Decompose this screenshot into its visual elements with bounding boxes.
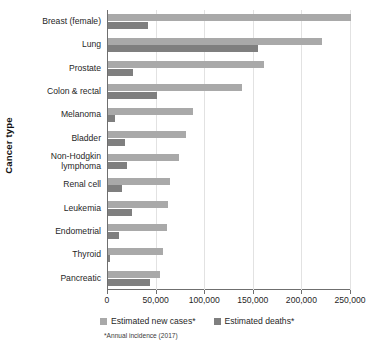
bar-estimated-new-cases [108, 271, 160, 278]
category-label-column: Breast (female)LungProstateColon & recta… [17, 10, 105, 290]
x-axis: 050,000100,000150,000200,000250,000 [107, 290, 350, 310]
x-axis-tick [350, 290, 351, 294]
legend-swatch-icon [100, 318, 107, 325]
category-label-row: Leukemia [17, 197, 105, 220]
bar-estimated-new-cases [108, 38, 322, 45]
bar-estimated-deaths [108, 255, 110, 262]
bar-estimated-new-cases [108, 248, 163, 255]
x-axis-tick [204, 290, 205, 294]
legend-swatch-icon [214, 318, 221, 325]
x-axis-tick [107, 290, 108, 294]
bar-estimated-deaths [108, 115, 115, 122]
category-label: Non-Hodgkin lymphoma [17, 152, 105, 171]
bars-column [107, 10, 350, 290]
category-label: Renal cell [17, 180, 105, 190]
category-label: Thyroid [17, 250, 105, 260]
bar-estimated-new-cases [108, 108, 193, 115]
category-label: Pancreatic [17, 274, 105, 284]
bar-estimated-deaths [108, 185, 122, 192]
bar-estimated-deaths [108, 162, 127, 169]
y-axis-title: Cancer type [0, 0, 16, 290]
x-axis-tick-label: 200,000 [286, 295, 317, 305]
category-label-row: Melanoma [17, 103, 105, 126]
bar-estimated-new-cases [108, 131, 186, 138]
x-axis-tick [301, 290, 302, 294]
bar-estimated-deaths [108, 279, 150, 286]
bar-estimated-new-cases [108, 84, 242, 91]
category-label: Prostate [17, 64, 105, 74]
bar-estimated-deaths [108, 209, 132, 216]
category-label: Leukemia [17, 204, 105, 214]
category-label: Bladder [17, 134, 105, 144]
category-label: Melanoma [17, 110, 105, 120]
category-label-row: Non-Hodgkin lymphoma [17, 150, 105, 173]
category-label-row: Prostate [17, 57, 105, 80]
legend-label: Estimated new cases* [111, 316, 196, 326]
x-axis-tick-label: 250,000 [334, 295, 365, 305]
chart-legend: Estimated new cases*Estimated deaths* [100, 316, 350, 326]
gridline [301, 10, 302, 290]
legend-item[interactable]: Estimated deaths* [214, 316, 295, 326]
bar-estimated-deaths [108, 139, 125, 146]
category-label: Lung [17, 40, 105, 50]
category-label: Breast (female) [17, 17, 105, 27]
y-axis-title-text: Cancer type [3, 117, 14, 174]
category-label-row: Endometrial [17, 220, 105, 243]
x-axis-tick-label: 0 [105, 295, 110, 305]
bar-estimated-deaths [108, 92, 157, 99]
bar-estimated-deaths [108, 22, 148, 29]
bar-estimated-new-cases [108, 178, 170, 185]
category-label-row: Pancreatic [17, 267, 105, 290]
category-label-row: Lung [17, 33, 105, 56]
legend-label: Estimated deaths* [225, 316, 295, 326]
plot-area: Breast (female)LungProstateColon & recta… [17, 10, 350, 290]
category-label: Endometrial [17, 227, 105, 237]
category-label-row: Colon & rectal [17, 80, 105, 103]
x-axis-tick [156, 290, 157, 294]
bar-estimated-new-cases [108, 154, 179, 161]
x-axis-tick [253, 290, 254, 294]
category-label-row: Bladder [17, 127, 105, 150]
bar-estimated-deaths [108, 232, 119, 239]
category-label: Colon & rectal [17, 87, 105, 97]
legend-item[interactable]: Estimated new cases* [100, 316, 196, 326]
category-label-row: Thyroid [17, 243, 105, 266]
chart-footnote: *Annual incidence (2017) [104, 332, 178, 339]
category-label-row: Renal cell [17, 173, 105, 196]
category-label-row: Breast (female) [17, 10, 105, 33]
x-axis-tick-label: 50,000 [142, 295, 168, 305]
bar-estimated-new-cases [108, 14, 351, 21]
bar-estimated-deaths [108, 45, 258, 52]
x-axis-tick-label: 150,000 [237, 295, 268, 305]
bar-estimated-new-cases [108, 224, 167, 231]
x-axis-tick-label: 100,000 [189, 295, 220, 305]
gridline [350, 10, 351, 290]
bar-estimated-deaths [108, 69, 133, 76]
bar-estimated-new-cases [108, 61, 264, 68]
bar-estimated-new-cases [108, 201, 168, 208]
